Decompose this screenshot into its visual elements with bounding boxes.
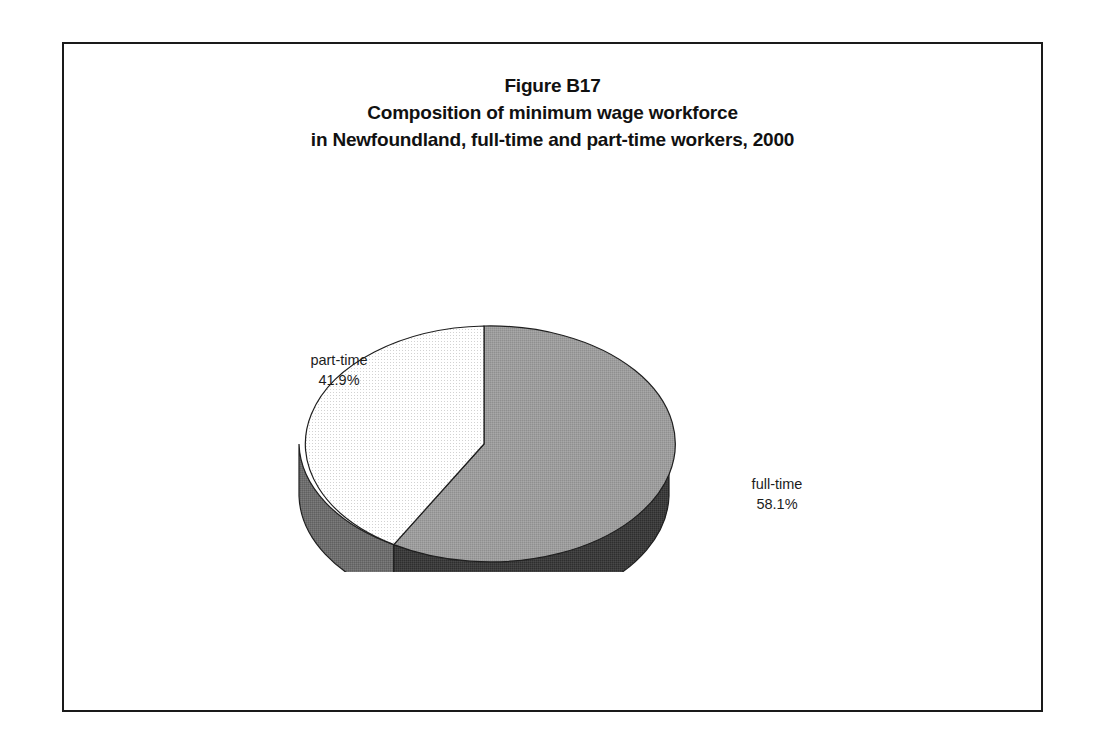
pie-label-part-time-name: part-time bbox=[279, 350, 399, 370]
pie-label-full-time-name: full-time bbox=[717, 474, 837, 494]
figure-border-frame: Figure B17 Composition of minimum wage w… bbox=[62, 42, 1043, 712]
pie-label-part-time: part-time 41.9% bbox=[279, 350, 399, 390]
pie-chart-3d bbox=[294, 242, 714, 572]
pie-label-full-time: full-time 58.1% bbox=[717, 474, 837, 514]
pie-chart-area: part-time 41.9% full-time 58.1% bbox=[64, 44, 1045, 714]
figure-root: Figure B17 Composition of minimum wage w… bbox=[0, 0, 1100, 755]
pie-label-part-time-value: 41.9% bbox=[279, 370, 399, 390]
pie-label-full-time-value: 58.1% bbox=[717, 494, 837, 514]
